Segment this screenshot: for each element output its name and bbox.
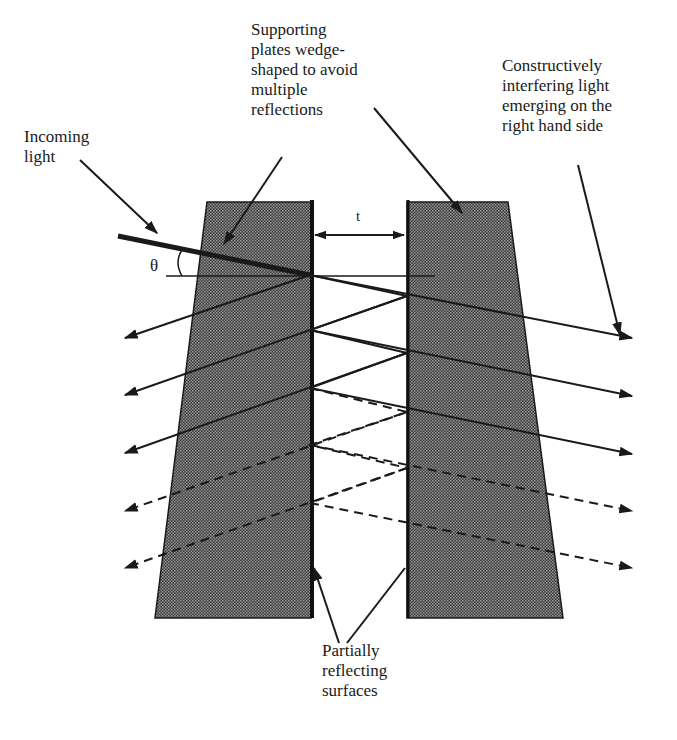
angle-arc — [178, 250, 182, 276]
incoming-pointer — [80, 160, 157, 233]
partial-pointer-right — [347, 568, 405, 643]
partially-reflecting-label: Partially reflecting surfaces — [322, 641, 387, 701]
supporting-pointer-right — [374, 108, 462, 213]
supporting-plates-label: Supporting plates wedge- shaped to avoid… — [251, 20, 358, 120]
right-plate — [407, 202, 563, 618]
gap-t-label: t — [356, 206, 360, 226]
theta-label: θ — [150, 256, 158, 276]
constructive-light-label: Constructively interfering light emergin… — [502, 56, 612, 136]
partial-pointer-left — [314, 568, 339, 643]
constructive-pointer — [578, 165, 620, 335]
incoming-light-label: Incoming light — [24, 127, 89, 167]
